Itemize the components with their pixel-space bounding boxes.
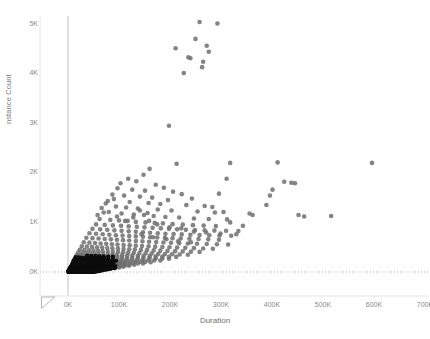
data-points-layer <box>66 20 374 274</box>
resize-handle-icon[interactable] <box>40 295 60 311</box>
scatter-chart-panel: nstance Count 0K1K2K3K4K5K 0K100K200K300… <box>0 0 430 339</box>
scatter-plot-area[interactable] <box>0 0 430 339</box>
x-axis-title: Duration <box>0 316 430 325</box>
